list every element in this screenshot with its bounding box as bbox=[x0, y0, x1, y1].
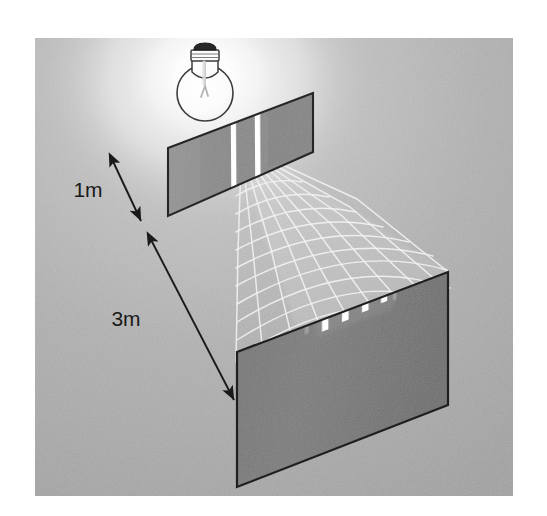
optics-diagram-svg: 1m 3m bbox=[0, 0, 547, 516]
figure-root: 1m 3m bbox=[0, 0, 547, 516]
